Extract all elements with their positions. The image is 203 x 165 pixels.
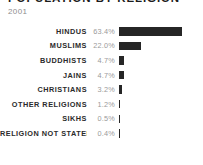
bar-row-label: RELIGION NOT STATED bbox=[0, 129, 87, 138]
bar-track bbox=[119, 82, 203, 97]
bar bbox=[119, 129, 120, 138]
bar-track bbox=[119, 53, 203, 68]
bar-track bbox=[119, 68, 203, 83]
bar-row: HINDUS63.4% bbox=[0, 24, 203, 39]
bar-row-value: 63.4% bbox=[87, 27, 119, 36]
bar-row-label: CHRISTIANS bbox=[0, 85, 87, 94]
bar-row-label: BUDDHISTS bbox=[0, 56, 87, 65]
chart-title-clip: POPULATION BY RELIGION bbox=[0, 0, 203, 4]
bar-track bbox=[119, 97, 203, 112]
bar-track bbox=[119, 112, 203, 127]
bar-row-value: 1.2% bbox=[87, 100, 119, 109]
bar-row: OTHER RELIGIONS1.2% bbox=[0, 97, 203, 112]
population-by-religion-chart: POPULATION BY RELIGION 2001 HINDUS63.4%M… bbox=[0, 0, 203, 165]
bar bbox=[119, 56, 124, 65]
bar-row: BUDDHISTS4.7% bbox=[0, 53, 203, 68]
bar-row: SIKHS0.5% bbox=[0, 112, 203, 127]
bar-track bbox=[119, 39, 203, 54]
bar-track bbox=[119, 24, 203, 39]
bar-row: CHRISTIANS3.2% bbox=[0, 82, 203, 97]
bar-row-value: 0.5% bbox=[87, 114, 119, 123]
bar-row-value: 3.2% bbox=[87, 85, 119, 94]
bar-track bbox=[119, 126, 203, 141]
bar bbox=[119, 42, 141, 51]
bar bbox=[119, 85, 122, 94]
chart-title: POPULATION BY RELIGION bbox=[8, 0, 180, 4]
bar-row-label: HINDUS bbox=[0, 27, 87, 36]
bar-rows: HINDUS63.4%MUSLIMS22.0%BUDDHISTS4.7%JAIN… bbox=[0, 24, 203, 141]
bar-row: MUSLIMS22.0% bbox=[0, 39, 203, 54]
bar-row-label: OTHER RELIGIONS bbox=[0, 100, 87, 109]
chart-subtitle-year: 2001 bbox=[8, 7, 27, 16]
bar-row-value: 4.7% bbox=[87, 56, 119, 65]
bar-row: JAINS4.7% bbox=[0, 68, 203, 83]
bar bbox=[119, 71, 124, 80]
bar-row-label: JAINS bbox=[0, 71, 87, 80]
bar-row-label: MUSLIMS bbox=[0, 41, 87, 50]
bar-row-value: 0.4% bbox=[87, 129, 119, 138]
bar-row-value: 4.7% bbox=[87, 71, 119, 80]
bar-row-value: 22.0% bbox=[87, 41, 119, 50]
bar bbox=[119, 115, 120, 124]
bar-row-label: SIKHS bbox=[0, 114, 87, 123]
bar bbox=[119, 100, 120, 109]
bar-row: RELIGION NOT STATED0.4% bbox=[0, 126, 203, 141]
bar bbox=[119, 27, 182, 36]
